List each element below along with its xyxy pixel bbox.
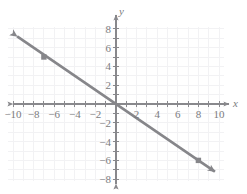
y-tick-label: −4 xyxy=(99,136,111,147)
coordinate-plane-figure: −10−8−6−4−2246810 8642−2−4−6−8 x y xyxy=(0,0,247,194)
x-tick-label: 6 xyxy=(175,109,181,120)
x-tick-label: −8 xyxy=(28,109,40,120)
y-tick-label: −2 xyxy=(99,117,111,128)
y-tick-label: 4 xyxy=(106,61,112,72)
y-tick-label: 8 xyxy=(106,23,112,34)
y-tick-label: 2 xyxy=(106,80,112,91)
y-tick-label: −8 xyxy=(99,174,111,185)
data-point-marker xyxy=(196,158,201,163)
x-tick-label: 8 xyxy=(196,109,202,120)
x-tick-label: −6 xyxy=(48,109,60,120)
y-axis-label: y xyxy=(119,6,124,17)
x-axis-label: x xyxy=(233,98,238,109)
x-tick-label: 10 xyxy=(214,109,225,120)
data-point-marker xyxy=(41,54,46,59)
y-tick-label: −6 xyxy=(99,155,111,166)
x-tick-label: 2 xyxy=(134,109,140,120)
graph-canvas xyxy=(0,0,247,194)
x-tick-label: −4 xyxy=(69,109,81,120)
x-tick-label: −10 xyxy=(4,109,21,120)
x-tick-label: 4 xyxy=(154,109,160,120)
y-tick-label: 6 xyxy=(106,42,112,53)
